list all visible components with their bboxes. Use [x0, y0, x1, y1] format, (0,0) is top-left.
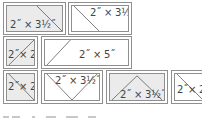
piece-hst-gray: 2˝× 2˝ [3, 36, 38, 69]
piece-trapezoid-white: 2˝ × 3½˝ [68, 2, 132, 35]
piece-label: 2˝ × 3½˝ [10, 19, 56, 30]
piece-parallelogram: 2˝ × 5˝ [41, 36, 132, 69]
piece-label: 2˝ × 3½˝ [120, 89, 165, 100]
piece-label: 2˝ × 3½˝ [90, 7, 129, 18]
piece-hst-white: 2˝× 2˝ [171, 70, 202, 104]
piece-flying-goose-up: 2˝ × 3½˝ [106, 70, 168, 104]
piece-label: 2˝× 2˝ [8, 49, 35, 60]
piece-label: 2˝ × 3½˝ [55, 75, 100, 86]
piece-label: 2˝× 2˝ [177, 84, 202, 95]
piece-label: 2˝× 2˝ [8, 81, 35, 92]
piece-hst-gray: 2˝× 2˝ [3, 70, 38, 104]
piece-trapezoid-gray: 2˝ × 3½˝ [3, 2, 66, 35]
cropped-caption [0, 115, 202, 120]
piece-label: 2˝ × 5˝ [79, 49, 115, 60]
piece-flying-goose-down: 2˝ × 3½˝ [41, 70, 103, 104]
